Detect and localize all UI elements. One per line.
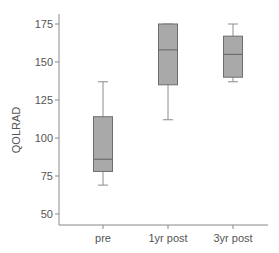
x-tick-label: pre (95, 232, 111, 244)
y-tick-label: 150 (35, 56, 53, 68)
box-plot-chart: 5075100125150175 pre1yr post3yr post QOL… (0, 0, 279, 253)
y-axis: 5075100125150175 (35, 14, 59, 225)
iqr-box (94, 117, 113, 172)
iqr-box (224, 36, 243, 77)
box-3yr-post (224, 24, 243, 82)
boxes (94, 24, 243, 185)
y-tick-label: 175 (35, 18, 53, 30)
box-pre (94, 82, 113, 185)
box-1yr-post (159, 24, 178, 120)
iqr-box (159, 24, 178, 85)
y-tick-label: 75 (41, 170, 53, 182)
y-tick-label: 50 (41, 208, 53, 220)
x-tick-label: 1yr post (148, 232, 187, 244)
x-axis: pre1yr post3yr post (59, 225, 268, 244)
y-tick-label: 100 (35, 132, 53, 144)
y-axis-label: QOLRAD (10, 107, 22, 154)
x-tick-label: 3yr post (213, 232, 252, 244)
y-tick-label: 125 (35, 94, 53, 106)
